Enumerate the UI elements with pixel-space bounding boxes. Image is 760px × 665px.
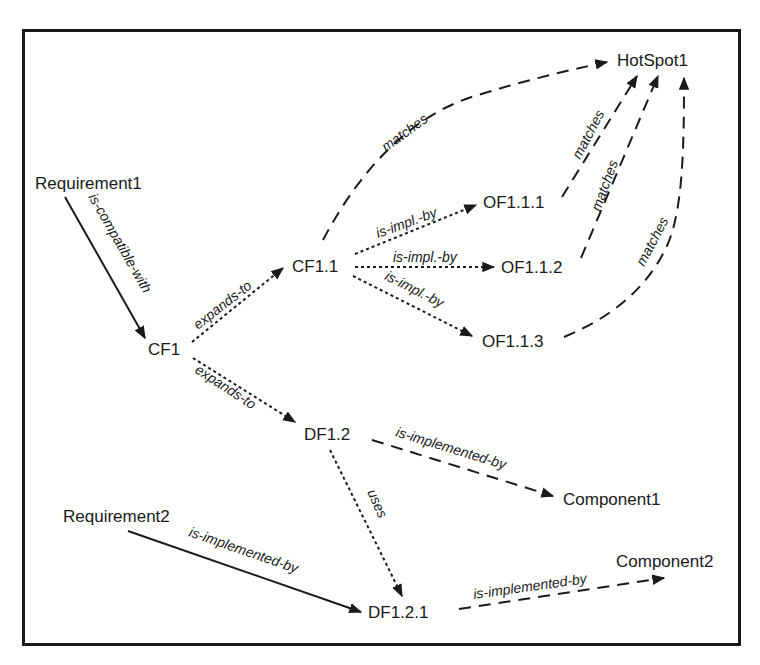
- node-of1-1-3: OF1.1.3: [482, 332, 543, 351]
- node-component2: Component2: [616, 552, 713, 571]
- edge-label-expands-to-1: expands-to: [190, 277, 255, 332]
- node-of1-1-2: OF1.1.2: [501, 258, 562, 277]
- edge-label-is-implemented-by-2: is-implemented-by: [187, 524, 301, 577]
- edge-label-is-implemented-by-3: is-implemented-by: [472, 570, 588, 602]
- node-of1-1-1: OF1.1.1: [483, 193, 544, 212]
- edge-of1-1-3-hotspot1: [564, 78, 684, 337]
- diagram-canvas: is-compatible-with expands-to expands-to…: [0, 0, 760, 665]
- node-cf1: CF1: [148, 340, 180, 359]
- edge-label-is-impl-by-2: is-impl.-by: [393, 249, 458, 265]
- edge-label-uses: uses: [364, 487, 391, 521]
- node-requirement2: Requirement2: [63, 507, 170, 526]
- edge-label-is-impl-by-1: is-impl.-by: [374, 204, 440, 241]
- edge-label-is-compatible-with: is-compatible-with: [85, 191, 155, 296]
- edge-df1-2-df1-2-1: [330, 450, 402, 596]
- edge-label-matches-3: matches: [588, 158, 621, 213]
- edge-label-matches-4: matches: [633, 214, 672, 268]
- node-hotspot1: HotSpot1: [617, 51, 688, 70]
- edge-label-is-impl-by-3: is-impl.-by: [383, 267, 448, 311]
- edge-label-matches-1: matches: [378, 110, 430, 154]
- edge-cf1-1-hotspot1: [323, 62, 607, 240]
- node-requirement1: Requirement1: [35, 174, 142, 193]
- node-df1-2: DF1.2: [304, 425, 350, 444]
- node-cf1-1: CF1.1: [292, 257, 338, 276]
- node-df1-2-1: DF1.2.1: [368, 603, 428, 622]
- edge-label-expands-to-2: expands-to: [192, 361, 259, 412]
- edge-cf1-cf1-1: [192, 268, 283, 342]
- node-component1: Component1: [563, 490, 660, 509]
